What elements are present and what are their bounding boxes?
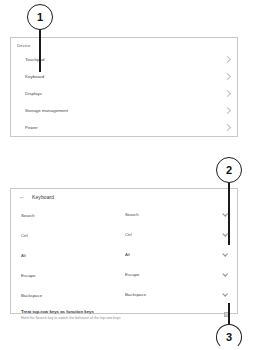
keyboard-panel-header: ← Keyboard — [11, 189, 237, 205]
key-mapping-row-backspace: Backspace Backspace — [11, 285, 237, 305]
chevron-down-icon — [222, 291, 228, 297]
settings-row-label: Keyboard — [25, 74, 225, 79]
function-keys-subtitle: Hold the Search key to switch the behavi… — [21, 316, 120, 320]
key-mapping-label: Backspace — [21, 293, 125, 298]
callout-number-3: 3 — [216, 324, 242, 350]
callout-marker-1: 1 — [27, 4, 53, 72]
callout-marker-2: 2 — [216, 157, 242, 245]
key-mapping-label: Escape — [21, 273, 125, 278]
settings-row-displays[interactable]: Displays — [11, 85, 237, 102]
chevron-right-icon — [224, 124, 231, 131]
function-keys-setting-row[interactable]: Treat top-row keys as function keys Hold… — [11, 305, 237, 325]
key-mapping-select[interactable]: Backspace — [125, 292, 229, 298]
callout-leader-line-1 — [39, 30, 41, 72]
callout-marker-3: 3 — [216, 303, 242, 350]
function-keys-text: Treat top-row keys as function keys Hold… — [21, 309, 120, 320]
settings-row-label: Displays — [25, 91, 225, 96]
settings-row-label: Power — [25, 125, 225, 130]
chevron-right-icon — [224, 56, 231, 63]
page-title: Keyboard — [32, 194, 54, 200]
key-mapping-select[interactable]: Search — [125, 212, 229, 218]
settings-row-label: Storage management — [25, 108, 225, 113]
key-mapping-label: Search — [21, 213, 125, 218]
chevron-right-icon — [224, 90, 231, 97]
key-mapping-value: Backspace — [125, 292, 146, 297]
key-mapping-row-ctrl: Ctrl Ctrl — [11, 225, 237, 245]
callout-leader-line-2 — [228, 183, 230, 245]
key-mapping-select[interactable]: Escape — [125, 272, 229, 278]
key-mapping-value: Ctrl — [125, 232, 132, 237]
callout-leader-line-3 — [228, 303, 230, 324]
callout-number-1: 1 — [27, 4, 53, 30]
callout-number-2: 2 — [216, 157, 242, 183]
back-arrow-icon[interactable]: ← — [19, 194, 25, 200]
chevron-down-icon — [222, 251, 228, 257]
key-mapping-value: Escape — [125, 272, 139, 277]
chevron-down-icon — [222, 271, 228, 277]
function-keys-title: Treat top-row keys as function keys — [21, 309, 120, 314]
key-mapping-label: Alt — [21, 253, 125, 258]
key-mapping-row-escape: Escape Escape — [11, 265, 237, 285]
key-mapping-row-alt: Alt Alt — [11, 245, 237, 265]
key-mapping-select[interactable]: Ctrl — [125, 232, 229, 238]
keyboard-settings-panel: ← Keyboard Search Search Ctrl Ctrl Alt A… — [10, 188, 238, 314]
key-mapping-row-search: Search Search — [11, 205, 237, 225]
chevron-right-icon — [224, 107, 231, 114]
settings-row-storage-management[interactable]: Storage management — [11, 102, 237, 119]
key-mapping-value: Alt — [125, 252, 130, 257]
settings-row-power[interactable]: Power — [11, 119, 237, 136]
key-mapping-label: Ctrl — [21, 233, 125, 238]
key-mapping-select[interactable]: Alt — [125, 252, 229, 258]
settings-row-label: Touchpad — [25, 57, 225, 62]
key-mapping-value: Search — [125, 212, 139, 217]
chevron-right-icon — [224, 73, 231, 80]
